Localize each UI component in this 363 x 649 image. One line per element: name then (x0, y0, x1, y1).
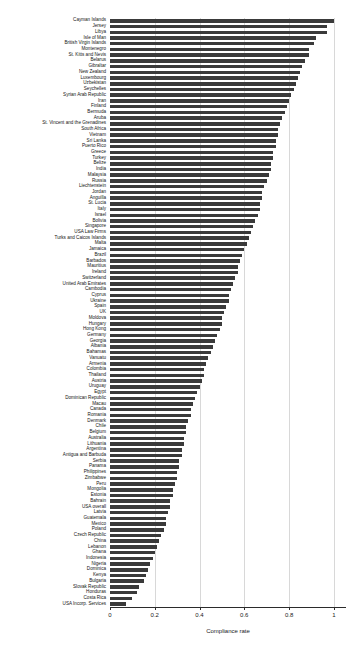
bar (110, 505, 170, 509)
bar (110, 208, 260, 212)
bar-row (110, 53, 345, 57)
bar-row (110, 276, 345, 280)
bar (110, 82, 296, 86)
bar-row (110, 59, 345, 63)
bar-row (110, 374, 345, 378)
bar (110, 419, 188, 423)
bar (110, 511, 168, 515)
bar-row (110, 562, 345, 566)
bar (110, 334, 217, 338)
tick-mark (244, 607, 245, 610)
tick-label: 0.4 (187, 612, 213, 619)
bar-row (110, 219, 345, 223)
bar (110, 385, 200, 389)
bar (110, 551, 155, 555)
bar-row (110, 585, 345, 589)
tick-mark (334, 607, 335, 610)
tick-label: 0.6 (231, 612, 257, 619)
category-label: Bulgaria (89, 579, 106, 584)
bar (110, 328, 220, 332)
bar (110, 425, 186, 429)
bar-row (110, 419, 345, 423)
bar-row (110, 311, 345, 315)
category-label: Jordan (92, 190, 106, 195)
bar (110, 397, 195, 401)
bar-row (110, 25, 345, 29)
bar-row (110, 465, 345, 469)
category-label: China (94, 539, 106, 544)
bar (110, 225, 253, 229)
bar-row (110, 602, 345, 606)
bar-row (110, 202, 345, 206)
bar-row (110, 482, 345, 486)
category-axis-labels: Cayman IslandsJerseyLibyaIsle of ManBrit… (0, 18, 108, 607)
tick-mark (155, 607, 156, 610)
bar-row (110, 196, 345, 200)
tick-label: 0 (97, 612, 123, 619)
category-label: Estonia (91, 493, 106, 498)
bars-container (110, 18, 345, 607)
bar (110, 448, 182, 452)
bar (110, 173, 269, 177)
bar-row (110, 545, 345, 549)
category-label: Costa Rica (84, 596, 106, 601)
bar-row (110, 488, 345, 492)
bar-row (110, 402, 345, 406)
category-label: Cyprus (91, 293, 106, 298)
category-label: USA Law Firms (74, 230, 106, 235)
bar-row (110, 191, 345, 195)
category-label: Romania (88, 413, 106, 418)
bar-row (110, 597, 345, 601)
bar-row (110, 111, 345, 115)
bar (110, 294, 229, 298)
bar-row (110, 499, 345, 503)
bar (110, 585, 139, 589)
bar-row (110, 133, 345, 137)
bar (110, 156, 273, 160)
tick-label: 0.8 (276, 612, 302, 619)
bar (110, 339, 215, 343)
bar-row (110, 185, 345, 189)
bar (110, 168, 271, 172)
bar-row (110, 328, 345, 332)
bar-row (110, 65, 345, 69)
bar-row (110, 568, 345, 572)
bar (110, 128, 278, 132)
bar-row (110, 162, 345, 166)
bar (110, 374, 204, 378)
bar (110, 534, 161, 538)
category-label: Israel (95, 213, 106, 218)
bar-row (110, 236, 345, 240)
category-label: Bermuda (87, 110, 106, 115)
category-label: Guatemala (84, 516, 106, 521)
bar-row (110, 471, 345, 475)
bar-row (110, 356, 345, 360)
bar-row (110, 459, 345, 463)
bar (110, 414, 191, 418)
bar-row (110, 48, 345, 52)
bar (110, 459, 179, 463)
bar (110, 528, 164, 532)
bar (110, 465, 179, 469)
category-label: Ireland (92, 270, 106, 275)
tick-mark (200, 607, 201, 610)
bar-row (110, 179, 345, 183)
x-axis-title: Compliance rate (110, 628, 346, 634)
bar (110, 494, 173, 498)
category-label: South Africa (81, 127, 106, 132)
bar (110, 454, 182, 458)
bar-row (110, 151, 345, 155)
bar (110, 597, 132, 601)
bar (110, 368, 204, 372)
bar-row (110, 294, 345, 298)
category-label: Switzerland (82, 276, 106, 281)
category-label: Germany (87, 333, 106, 338)
bar-row (110, 579, 345, 583)
bar (110, 76, 298, 80)
category-label: Vietnam (89, 133, 106, 138)
bar (110, 25, 327, 29)
bar (110, 219, 255, 223)
bar (110, 162, 271, 166)
bar-row (110, 93, 345, 97)
bar-row (110, 99, 345, 103)
